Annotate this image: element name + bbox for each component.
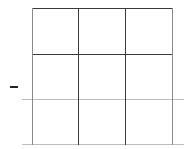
grid-line-bottom	[22, 144, 184, 145]
board-cell-2-0[interactable]	[33, 100, 78, 144]
board-cell-2-1[interactable]	[79, 100, 125, 144]
side-dash-marker	[10, 86, 18, 88]
board-cell-1-2[interactable]	[126, 55, 172, 99]
board-cell-0-2[interactable]	[126, 9, 172, 54]
board-cell-0-1[interactable]	[79, 9, 125, 54]
board-cell-2-2[interactable]	[126, 100, 172, 144]
board-cell-1-0[interactable]	[33, 55, 78, 99]
board-cell-1-1[interactable]	[79, 55, 125, 99]
game-board-area	[0, 0, 192, 149]
grid-line-right	[172, 8, 173, 145]
board-cell-0-0[interactable]	[33, 9, 78, 54]
